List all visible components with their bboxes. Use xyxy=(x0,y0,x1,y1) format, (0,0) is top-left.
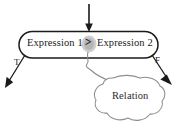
expression-2-label: Expression 2 xyxy=(97,38,153,49)
false-branch-label: F xyxy=(155,56,160,65)
diagram-canvas: Expression 1 > Expression 2 T F Relation xyxy=(0,0,178,131)
relational-operator-label: > xyxy=(85,37,92,49)
diagram-vector-layer xyxy=(0,0,178,131)
relation-callout-label: Relation xyxy=(112,91,148,102)
true-branch-label: T xyxy=(14,58,20,67)
entry-arrow xyxy=(85,4,93,32)
expression-1-label: Expression 1 xyxy=(27,38,83,49)
